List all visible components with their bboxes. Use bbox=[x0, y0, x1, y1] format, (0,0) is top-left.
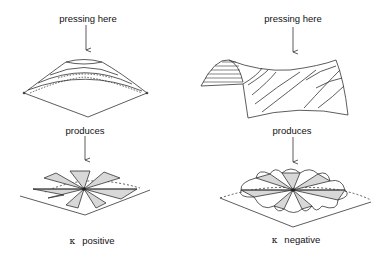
curvature-diagram bbox=[0, 0, 390, 256]
saddle-surface bbox=[201, 60, 348, 118]
kappa-symbol: κ bbox=[70, 236, 76, 246]
dome-surface bbox=[23, 60, 148, 118]
right-middle-label: produces bbox=[272, 126, 311, 136]
positive-star bbox=[20, 171, 150, 215]
left-panel bbox=[20, 25, 150, 215]
left-bottom-label: κpositive bbox=[70, 236, 115, 246]
right-top-label: pressing here bbox=[264, 14, 322, 24]
left-middle-label: produces bbox=[65, 126, 104, 136]
curvature-sign-label: negative bbox=[284, 234, 320, 245]
kappa-symbol: κ bbox=[272, 235, 278, 245]
right-bottom-label: κnegative bbox=[272, 235, 321, 245]
left-top-label: pressing here bbox=[59, 14, 117, 24]
negative-star bbox=[220, 169, 371, 227]
curvature-sign-label: positive bbox=[82, 235, 114, 246]
